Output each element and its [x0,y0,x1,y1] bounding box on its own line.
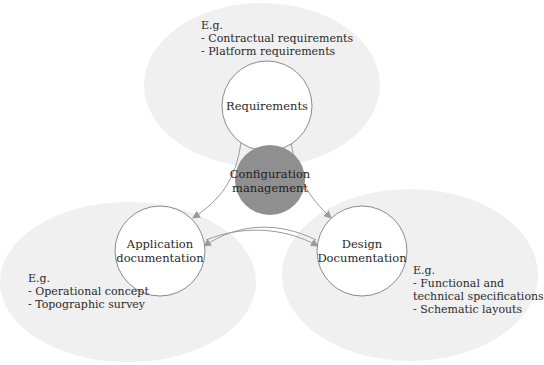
center-label-line1: Configuration [230,167,311,181]
design-label-line1: Design [317,237,406,251]
application-note-line: - Operational concept [28,285,149,298]
application-note-heading: E.g. [28,272,149,285]
design-label: Design Documentation [317,237,406,265]
application-label-line1: Application [116,237,203,251]
requirements-note-line: - Contractual requirements [201,32,353,45]
application-label: Application documentation [116,237,203,265]
application-label-line2: documentation [116,251,203,265]
design-note: E.g. - Functional and technical specific… [413,264,544,316]
requirements-label: Requirements [226,99,308,113]
design-label-line2: Documentation [317,251,406,265]
requirements-note-line: - Platform requirements [201,45,353,58]
design-note-line: - Schematic layouts [413,303,544,316]
design-note-heading: E.g. [413,264,544,277]
application-note-line: - Topographic survey [28,298,149,311]
configuration-management-label: Configuration management [230,167,311,195]
requirements-note-heading: E.g. [201,19,353,32]
requirements-note: E.g. - Contractual requirements - Platfo… [201,19,353,58]
design-note-line: - Functional and [413,277,544,290]
application-note: E.g. - Operational concept - Topographic… [28,272,149,311]
requirements-label-line1: Requirements [226,99,308,113]
design-note-line: technical specifications [413,290,544,303]
center-label-line2: management [230,181,311,195]
